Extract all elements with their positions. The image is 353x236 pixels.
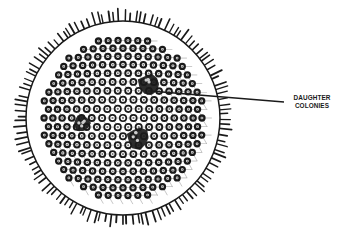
daughter-colonies-label: DAUGHTER COLONIES [286,94,338,110]
label-line-2: COLONIES [286,102,338,110]
diagram-canvas: DAUGHTER COLONIES [0,0,353,236]
label-line-1: DAUGHTER [286,94,338,102]
colony-illustration [0,0,353,236]
